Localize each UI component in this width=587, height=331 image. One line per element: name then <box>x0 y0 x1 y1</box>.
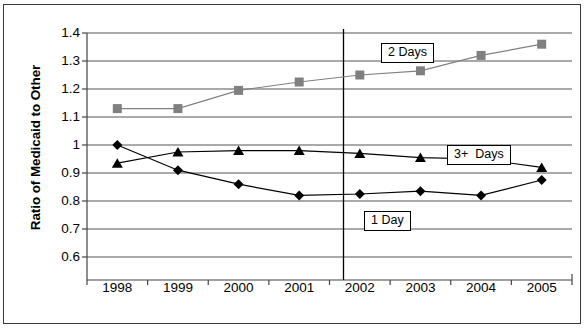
plot-area <box>0 0 587 331</box>
data-point-diamond <box>537 175 547 185</box>
series-label-2-days: 2 Days <box>381 43 434 63</box>
data-point-square <box>416 66 425 75</box>
data-point-diamond <box>294 190 304 200</box>
data-point-square <box>477 51 486 60</box>
y-axis-ticks <box>82 33 87 257</box>
data-point-diamond <box>476 190 486 200</box>
data-point-square <box>537 40 546 49</box>
data-point-square <box>355 71 364 80</box>
line-chart: Ratio of Medicaid to Other 1.41.31.21.11… <box>0 0 587 331</box>
data-point-diamond <box>234 179 244 189</box>
series-label-3-days: 3+ Days <box>447 145 511 165</box>
data-point-diamond <box>112 140 122 150</box>
series-label-1-day: 1 Day <box>364 211 411 231</box>
data-series <box>112 40 547 201</box>
data-point-diamond <box>173 165 183 175</box>
data-point-square <box>173 104 182 113</box>
data-point-square <box>295 78 304 87</box>
data-point-square <box>113 104 122 113</box>
series-2-days <box>113 40 546 113</box>
data-point-square <box>234 86 243 95</box>
data-point-diamond <box>355 189 365 199</box>
data-point-diamond <box>415 186 425 196</box>
